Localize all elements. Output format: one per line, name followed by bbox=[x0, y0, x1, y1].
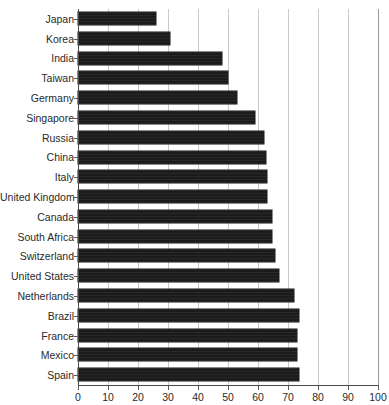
bar bbox=[78, 210, 272, 223]
category-label-india: India bbox=[0, 52, 74, 64]
category-axis-line bbox=[78, 9, 79, 386]
bar-row bbox=[78, 365, 378, 385]
category-label-brazil: Brazil bbox=[0, 310, 74, 322]
value-tickmark-70 bbox=[288, 386, 289, 390]
bar bbox=[78, 348, 297, 361]
category-label-italy: Italy bbox=[0, 171, 74, 183]
bar bbox=[78, 289, 294, 302]
gridline-100 bbox=[378, 9, 379, 385]
bar bbox=[78, 111, 255, 124]
category-label-mexico: Mexico bbox=[0, 349, 74, 361]
category-label-switzerland: Switzerland bbox=[0, 250, 74, 262]
bar-row bbox=[78, 345, 378, 365]
bar-row bbox=[78, 148, 378, 168]
value-tick-label-40: 40 bbox=[192, 391, 204, 403]
category-label-united-states: United States bbox=[0, 270, 74, 282]
category-label-singapore: Singapore bbox=[0, 112, 74, 124]
bar-row bbox=[78, 246, 378, 266]
bar bbox=[78, 368, 299, 381]
bar-row bbox=[78, 187, 378, 207]
value-tickmark-10 bbox=[108, 386, 109, 390]
bar bbox=[78, 12, 156, 25]
value-tick-label-80: 80 bbox=[312, 391, 324, 403]
plot-area bbox=[78, 9, 378, 385]
bar-row bbox=[78, 286, 378, 306]
bar-row bbox=[78, 9, 378, 29]
category-label-south-africa: South Africa bbox=[0, 231, 74, 243]
value-tick-label-100: 100 bbox=[369, 391, 387, 403]
value-tick-label-90: 90 bbox=[342, 391, 354, 403]
value-tickmark-90 bbox=[348, 386, 349, 390]
bar-row bbox=[78, 207, 378, 227]
bar bbox=[78, 131, 264, 144]
bar-rows bbox=[78, 9, 378, 385]
bar-row bbox=[78, 128, 378, 148]
category-label-united-kingdom: United Kingdom bbox=[0, 191, 74, 203]
category-label-germany: Germany bbox=[0, 92, 74, 104]
bar-row bbox=[78, 68, 378, 88]
value-tick-label-70: 70 bbox=[282, 391, 294, 403]
value-tickmark-100 bbox=[378, 386, 379, 390]
category-label-china: China bbox=[0, 151, 74, 163]
value-tickmark-60 bbox=[258, 386, 259, 390]
bar bbox=[78, 52, 222, 65]
category-label-russia: Russia bbox=[0, 132, 74, 144]
bar-chart: JapanKoreaIndiaTaiwanGermanySingaporeRus… bbox=[0, 0, 389, 405]
bar-row bbox=[78, 306, 378, 326]
value-tickmark-80 bbox=[318, 386, 319, 390]
bar bbox=[78, 269, 279, 282]
bar bbox=[78, 91, 237, 104]
category-label-france: France bbox=[0, 330, 74, 342]
bar bbox=[78, 151, 266, 164]
bar-row bbox=[78, 266, 378, 286]
category-label-japan: Japan bbox=[0, 13, 74, 25]
category-label-netherlands: Netherlands bbox=[0, 290, 74, 302]
value-tickmark-30 bbox=[168, 386, 169, 390]
category-label-canada: Canada bbox=[0, 211, 74, 223]
bar-row bbox=[78, 29, 378, 49]
category-label-taiwan: Taiwan bbox=[0, 72, 74, 84]
bar-row bbox=[78, 88, 378, 108]
value-axis-ticks: 0102030405060708090100 bbox=[78, 386, 379, 405]
bar bbox=[78, 249, 275, 262]
bar bbox=[78, 190, 267, 203]
bar bbox=[78, 230, 272, 243]
value-tickmark-40 bbox=[198, 386, 199, 390]
bar-row bbox=[78, 326, 378, 346]
value-tick-label-10: 10 bbox=[102, 391, 114, 403]
bar bbox=[78, 32, 170, 45]
value-tick-label-0: 0 bbox=[75, 391, 81, 403]
value-tickmark-50 bbox=[228, 386, 229, 390]
bar-row bbox=[78, 108, 378, 128]
value-tickmark-20 bbox=[138, 386, 139, 390]
value-tick-label-30: 30 bbox=[162, 391, 174, 403]
bar-row bbox=[78, 227, 378, 247]
category-label-spain: Spain bbox=[0, 369, 74, 381]
bar bbox=[78, 309, 299, 322]
bar bbox=[78, 329, 297, 342]
bar bbox=[78, 71, 228, 84]
value-tickmark-0 bbox=[78, 386, 79, 390]
chart-title bbox=[78, 0, 378, 3]
category-label-korea: Korea bbox=[0, 33, 74, 45]
category-axis-labels: JapanKoreaIndiaTaiwanGermanySingaporeRus… bbox=[0, 9, 74, 385]
bar-row bbox=[78, 49, 378, 69]
bar bbox=[78, 170, 267, 183]
value-tick-label-60: 60 bbox=[252, 391, 264, 403]
value-tick-label-20: 20 bbox=[132, 391, 144, 403]
value-tick-label-50: 50 bbox=[222, 391, 234, 403]
bar-row bbox=[78, 167, 378, 187]
